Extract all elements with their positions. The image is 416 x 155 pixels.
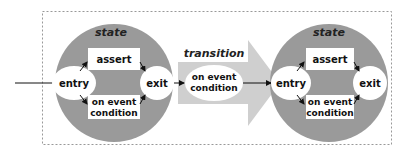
event-label-left-line2: condition bbox=[90, 108, 137, 118]
state-title-right: state bbox=[313, 26, 345, 39]
entry-label-right: entry bbox=[276, 78, 307, 89]
state-transition-diagram: state entry exit assert on event conditi… bbox=[0, 0, 416, 155]
state-title-left: state bbox=[95, 26, 127, 39]
assert-label-right: assert bbox=[312, 54, 347, 65]
exit-label-left: exit bbox=[146, 78, 168, 89]
transition-event-line1: on event bbox=[192, 72, 237, 82]
assert-label-left: assert bbox=[96, 54, 131, 65]
exit-label-right: exit bbox=[359, 78, 381, 89]
entry-label-left: entry bbox=[59, 78, 90, 89]
event-label-right-line1: on event bbox=[308, 97, 353, 107]
event-label-right-line2: condition bbox=[306, 108, 353, 118]
event-label-left-line1: on event bbox=[92, 97, 137, 107]
transition-title: transition bbox=[184, 47, 245, 60]
transition-event-line2: condition bbox=[190, 83, 237, 93]
